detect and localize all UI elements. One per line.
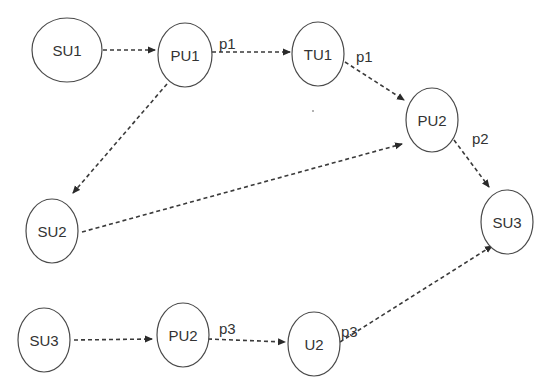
node-label: SU3: [29, 332, 58, 349]
edge-pu1-to-su2-arrow: [73, 84, 167, 193]
edge-pu2a-to-su3a-arrow: [454, 140, 489, 187]
node-su3b: SU3: [18, 308, 70, 372]
node-label: SU3: [492, 214, 521, 231]
graph-diagram: SU1PU1TU1PU2SU3SU2SU3PU2U2 p1p1p2p3p3: [0, 0, 550, 392]
node-label: PU1: [170, 47, 199, 64]
stray-speck: [312, 110, 314, 112]
node-u2: U2: [288, 312, 340, 376]
node-tu1: TU1: [292, 22, 344, 86]
node-label: TU1: [304, 46, 332, 63]
edge-su3b-to-pu2b-arrow: [74, 339, 152, 340]
node-pu2b: PU2: [157, 303, 209, 367]
node-su3a: SU3: [481, 190, 533, 254]
nodes-layer: SU1PU1TU1PU2SU3SU2SU3PU2U2: [18, 18, 533, 376]
node-su2: SU2: [26, 199, 78, 263]
node-pu1: PU1: [158, 23, 212, 87]
edge-su2-to-pu2a-arrow: [82, 144, 402, 232]
node-label: PU2: [417, 112, 446, 129]
node-pu2a: PU2: [406, 88, 458, 152]
edge-u2-to-su3a-arrow: [340, 246, 492, 342]
node-label: SU2: [37, 223, 66, 240]
edge-labels-layer: p1p1p2p3p3: [219, 35, 489, 340]
edge-label: p3: [341, 323, 358, 340]
node-label: PU2: [168, 327, 197, 344]
edge-label: p2: [472, 130, 489, 147]
edge-label: p1: [219, 35, 236, 52]
node-label: U2: [304, 336, 323, 353]
node-su1: SU1: [32, 18, 102, 82]
edge-label: p3: [219, 320, 236, 337]
node-label: SU1: [52, 42, 81, 59]
edge-pu2b-to-u2-arrow: [208, 339, 285, 342]
edge-tu1-to-pu2a-arrow: [345, 62, 404, 100]
edge-label: p1: [356, 48, 373, 65]
